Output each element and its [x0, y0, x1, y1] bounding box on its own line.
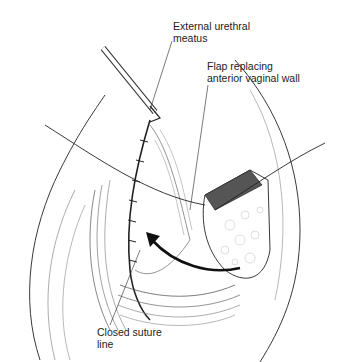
line-drawing [0, 0, 340, 362]
label-external-urethral-meatus: External urethral meatus [173, 20, 250, 44]
label-flap-anterior-vaginal-wall: Flap replacing anterior vaginal wall [207, 60, 300, 84]
surgical-illustration: External urethral meatus Flap replacing … [0, 0, 340, 362]
label-closed-suture-line: Closed suture line [97, 326, 162, 350]
